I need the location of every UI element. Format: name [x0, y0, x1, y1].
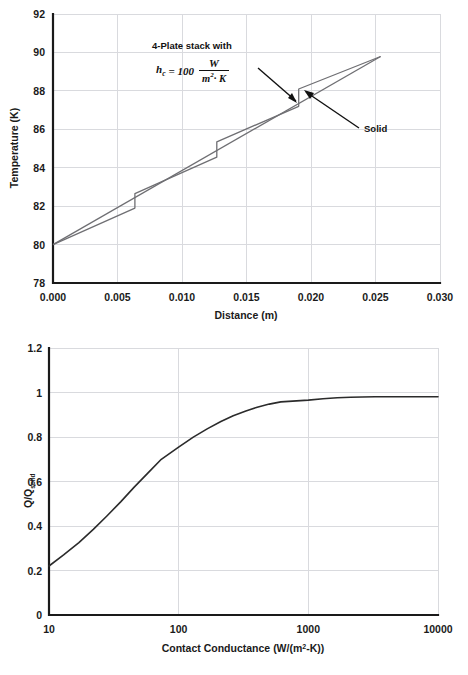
svg-text:84: 84 — [33, 162, 45, 174]
ratio-xaxis-title: Contact Conductance (W/(m2-K)) — [162, 642, 325, 654]
temperature-x-tick-labels: 0.000 0.005 0.010 0.015 0.020 0.025 0.03… — [40, 291, 453, 303]
ratio-yaxis-title: Q/Qsolid — [22, 474, 36, 508]
ratio-x-tick-labels: 10 100 1000 10000 — [43, 623, 453, 635]
equation-hc-symbol: hc — [156, 63, 165, 78]
svg-text:0.015: 0.015 — [233, 291, 259, 303]
svg-text:0.005: 0.005 — [104, 291, 130, 303]
ratio-gridlines-horizontal — [49, 348, 438, 571]
svg-text:100: 100 — [170, 623, 188, 635]
svg-text:0.000: 0.000 — [40, 291, 66, 303]
svg-text:80: 80 — [33, 239, 45, 251]
temperature-xaxis-title: Distance (m) — [214, 309, 277, 321]
gridlines-vertical — [118, 14, 441, 283]
svg-text:10000: 10000 — [423, 623, 452, 635]
svg-text:88: 88 — [33, 85, 45, 97]
svg-text:92: 92 — [33, 8, 45, 20]
svg-text:10: 10 — [43, 623, 55, 635]
svg-text:0.4: 0.4 — [27, 520, 42, 532]
svg-text:1: 1 — [36, 387, 42, 399]
plate-stack-callout-leader — [258, 68, 297, 103]
plate-stack-annotation-label: 4-Plate stack with — [152, 40, 232, 51]
temperature-y-tick-labels: 92 90 88 86 84 82 80 78 — [33, 8, 45, 289]
equation-numerator: W — [206, 58, 222, 70]
solid-annotation-label: Solid — [364, 123, 387, 134]
svg-text:82: 82 — [33, 200, 45, 212]
svg-text:0.025: 0.025 — [362, 291, 388, 303]
svg-text:90: 90 — [33, 46, 45, 58]
svg-text:78: 78 — [33, 277, 45, 289]
svg-text:0.030: 0.030 — [427, 291, 453, 303]
svg-text:0.010: 0.010 — [169, 291, 195, 303]
ratio-yaxis-subscript: solid — [29, 474, 36, 489]
temperature-yaxis-title: Temperature (K) — [8, 108, 20, 188]
equation-denominator: m2· K — [199, 72, 229, 84]
svg-text:0: 0 — [36, 609, 42, 621]
svg-text:0.020: 0.020 — [298, 291, 324, 303]
temperature-chart-svg: 92 90 88 86 84 82 80 78 0.000 0.005 0.01… — [0, 0, 468, 340]
equation-equals-value: = 100 — [168, 65, 194, 77]
svg-text:0.2: 0.2 — [27, 565, 42, 577]
solid-callout-leader — [304, 90, 359, 128]
svg-text:0.8: 0.8 — [27, 431, 42, 443]
svg-text:1000: 1000 — [297, 623, 321, 635]
contact-conductance-equation: hc = 100 W m2· K — [156, 58, 229, 83]
temperature-profile-figure: 92 90 88 86 84 82 80 78 0.000 0.005 0.01… — [0, 0, 468, 340]
ratio-chart-svg: 1.2 1 0.8 0.6 0.4 0.2 0 10 100 1000 1000… — [0, 330, 468, 675]
svg-text:86: 86 — [33, 123, 45, 135]
svg-text:1.2: 1.2 — [27, 342, 42, 354]
conductance-ratio-figure: 1.2 1 0.8 0.6 0.4 0.2 0 10 100 1000 1000… — [0, 330, 468, 675]
equation-fraction: W m2· K — [199, 58, 229, 83]
